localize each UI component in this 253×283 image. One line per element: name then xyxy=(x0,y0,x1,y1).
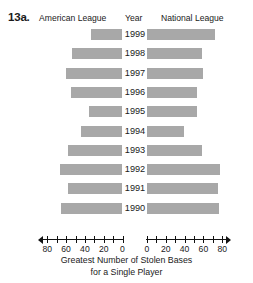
chart-row: 1991 xyxy=(0,180,253,199)
axis-title-line-1: Greatest Number of Stolen Bases xyxy=(0,255,253,267)
axis-title: Greatest Number of Stolen Bases for a Si… xyxy=(0,255,253,278)
bar-national-league xyxy=(147,203,219,214)
axis-tick-label: 20 xyxy=(94,244,114,254)
series-header-american-league: American League xyxy=(39,13,106,23)
chart-row: 1995 xyxy=(0,103,253,122)
bar-national-league xyxy=(147,164,220,175)
axis-tick xyxy=(76,236,77,243)
chart-row: 1990 xyxy=(0,200,253,219)
axis-tick-label: 60 xyxy=(193,244,213,254)
axis-line xyxy=(43,239,123,240)
axis-tick xyxy=(47,236,48,243)
bar-national-league xyxy=(147,87,197,98)
bar-american-league xyxy=(89,106,123,117)
axis-tick xyxy=(147,236,148,243)
figure-number-label: 13a. xyxy=(8,11,30,23)
axis-tick xyxy=(185,236,186,243)
bar-american-league xyxy=(72,48,123,59)
chart-row: 1993 xyxy=(0,142,253,161)
axis-tick xyxy=(123,236,124,243)
axis-tick-label: 60 xyxy=(56,244,76,254)
axis-tick-label: 40 xyxy=(75,244,95,254)
bar-american-league xyxy=(60,164,122,175)
axis-tick xyxy=(94,236,95,243)
bar-national-league xyxy=(147,183,218,194)
axis-tick xyxy=(194,236,195,243)
axis-tick-label: 80 xyxy=(212,244,232,254)
row-year-label: 1990 xyxy=(124,202,146,214)
bar-national-league xyxy=(147,29,215,40)
stolen-bases-population-pyramid-chart: 13a. American League Year National Leagu… xyxy=(0,0,253,283)
bar-american-league xyxy=(66,68,122,79)
axis-tick xyxy=(113,236,114,243)
axis-arrow-right xyxy=(226,236,231,244)
axis-tick-label: 40 xyxy=(175,244,195,254)
value-axis: 806040200020406080 xyxy=(0,234,253,254)
bar-american-league xyxy=(71,87,123,98)
chart-row: 1997 xyxy=(0,65,253,84)
row-year-label: 1993 xyxy=(124,144,146,156)
row-year-label: 1997 xyxy=(124,67,146,79)
bar-american-league xyxy=(68,145,123,156)
axis-line xyxy=(146,239,226,240)
axis-tick xyxy=(222,236,223,243)
row-year-label: 1995 xyxy=(124,105,146,117)
row-year-label: 1999 xyxy=(124,28,146,40)
axis-tick xyxy=(85,236,86,243)
bar-national-league xyxy=(147,68,203,79)
axis-tick-label: 0 xyxy=(137,244,157,254)
row-year-label: 1996 xyxy=(124,86,146,98)
chart-row: 1998 xyxy=(0,45,253,64)
bar-american-league xyxy=(91,29,123,40)
row-year-label: 1991 xyxy=(124,182,146,194)
axis-tick xyxy=(156,236,157,243)
axis-tick xyxy=(166,236,167,243)
axis-title-line-2: for a Single Player xyxy=(0,267,253,279)
chart-row: 1999 xyxy=(0,26,253,45)
axis-tick xyxy=(213,236,214,243)
axis-tick-label: 20 xyxy=(156,244,176,254)
bar-american-league xyxy=(61,203,122,214)
axis-tick xyxy=(66,236,67,243)
bar-american-league xyxy=(68,183,123,194)
column-header-year: Year xyxy=(125,13,142,23)
row-year-label: 1998 xyxy=(124,47,146,59)
bar-national-league xyxy=(147,126,184,137)
bar-national-league xyxy=(147,48,202,59)
chart-row: 1992 xyxy=(0,161,253,180)
chart-row: 1996 xyxy=(0,84,253,103)
axis-tick-label: 80 xyxy=(37,244,57,254)
bar-national-league xyxy=(147,145,202,156)
axis-tick xyxy=(57,236,58,243)
bar-national-league xyxy=(147,106,197,117)
axis-tick xyxy=(104,236,105,243)
chart-row: 1994 xyxy=(0,123,253,142)
axis-tick xyxy=(203,236,204,243)
axis-arrow-left xyxy=(38,236,43,244)
row-year-label: 1992 xyxy=(124,163,146,175)
bar-american-league xyxy=(81,126,122,137)
axis-tick xyxy=(175,236,176,243)
series-header-national-league: National League xyxy=(161,13,224,23)
axis-tick-label: 0 xyxy=(113,244,133,254)
row-year-label: 1994 xyxy=(124,125,146,137)
